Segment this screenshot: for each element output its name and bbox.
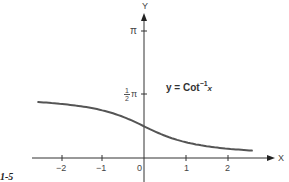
curve-equation-label: y = Cot−1x (166, 81, 212, 93)
x-axis-label: X (278, 154, 284, 163)
equation-variable: x (208, 84, 212, 93)
y-tick-label-half-pi: 12π (124, 87, 137, 102)
y-axis-label: Y (142, 2, 148, 11)
chart-canvas (0, 0, 289, 182)
x-tick-label-neg1: −1 (96, 164, 106, 173)
half-pi-denominator: 2 (124, 95, 130, 102)
x-tick-label-0: 0 (137, 164, 142, 173)
x-tick-label-2: 2 (225, 164, 230, 173)
figure-number: 1-5 (0, 172, 13, 182)
half-pi-symbol: π (131, 89, 137, 99)
x-axis-arrow-icon (267, 155, 275, 161)
y-axis-arrow-icon (141, 13, 147, 21)
x-tick-label-1: 1 (184, 164, 189, 173)
equation-superscript: −1 (200, 80, 208, 87)
equation-prefix: y = Cot (166, 82, 200, 93)
arccot-curve (38, 102, 252, 151)
half-pi-numerator: 1 (124, 87, 130, 95)
y-tick-label-pi: π (130, 26, 137, 36)
x-tick-label-neg2: −2 (56, 164, 66, 173)
